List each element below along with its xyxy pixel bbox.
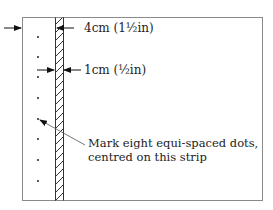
instruction-line-2: centred on this strip [88, 150, 207, 164]
dot [37, 76, 39, 78]
dot [37, 159, 39, 161]
dot [37, 56, 39, 58]
marking-dots [37, 36, 39, 182]
width-label: 1cm (½in) [84, 63, 146, 77]
dot [37, 36, 39, 38]
dot [37, 97, 39, 99]
offset-label: 4cm (1½in) [84, 21, 154, 35]
dot [37, 180, 39, 182]
hatched-strip [55, 18, 64, 201]
marking-diagram: 4cm (1½in) 1cm (½in) Mark eight equi-spa… [0, 0, 273, 210]
instruction-line-1: Mark eight equi-spaced dots, [88, 136, 258, 150]
dot [37, 138, 39, 140]
dot [37, 118, 39, 120]
